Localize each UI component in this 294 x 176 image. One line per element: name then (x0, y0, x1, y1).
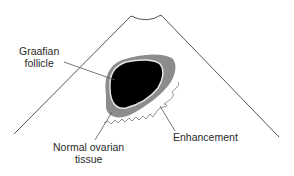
ultrasound-diagram (0, 0, 294, 176)
follicle-rim (110, 60, 163, 108)
enhancement-leader (160, 106, 175, 131)
label-follicle-line2: follicle (19, 57, 59, 69)
label-enhancement-text: Enhancement (173, 131, 238, 143)
label-normal-line1: Normal ovarian (53, 141, 124, 153)
follicle-leader (64, 62, 115, 80)
label-normal-line2: tissue (53, 153, 124, 165)
label-enhancement: Enhancement (173, 131, 238, 143)
label-follicle-line1: Graafian (19, 45, 59, 57)
label-graafian-follicle: Graafian follicle (19, 45, 59, 69)
normal-tissue-leader (95, 112, 112, 140)
label-normal-ovarian-tissue: Normal ovarian tissue (53, 141, 124, 165)
